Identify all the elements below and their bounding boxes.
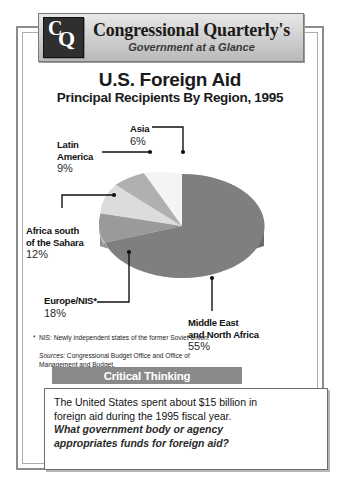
pie-label-latin-america: Latin America 9%: [57, 139, 93, 175]
publisher-title: Congressional Quarterly's: [84, 21, 299, 40]
pie-label-asia-pct: 6%: [130, 135, 149, 148]
ct-statement-line2: foreign aid during the 1995 fiscal year.: [54, 410, 318, 424]
pie-label-europe-nis: Europe/NIS* 18%: [44, 295, 97, 320]
ct-question-line2: appropriates funds for foreign aid?: [54, 437, 318, 451]
chart-title: U.S. Foreign Aid: [0, 69, 340, 91]
pie-label-africa-line2: of the Sahara: [26, 237, 84, 249]
ct-statement-line1: The United States spent about $15 billio…: [54, 396, 318, 410]
pie-label-europe-pct: 18%: [44, 307, 97, 320]
pie-label-africa-line1: Africa south: [26, 225, 84, 237]
cq-logo-icon: C Q: [43, 17, 84, 58]
pie-label-latin-line1: Latin: [57, 139, 93, 151]
chart-subtitle: Principal Recipients By Region, 1995: [0, 90, 340, 105]
critical-thinking-banner: Critical Thinking: [52, 367, 242, 384]
header-text-block: Congressional Quarterly's Government at …: [84, 21, 303, 54]
sources-label: Sources:: [39, 352, 65, 359]
header-banner: C Q Congressional Quarterly's Government…: [38, 13, 304, 62]
pie-label-asia: Asia 6%: [130, 123, 149, 148]
ct-question-line1: What government body or agency: [54, 423, 318, 437]
pie-label-asia-name: Asia: [130, 123, 149, 135]
critical-thinking-label: Critical Thinking: [104, 370, 191, 382]
footnote-nis-text: NIS: Newly independent states of the for…: [33, 334, 218, 343]
pie-label-africa: Africa south of the Sahara 12%: [26, 225, 84, 261]
footnote-nis: NIS: Newly independent states of the for…: [33, 334, 218, 343]
critical-thinking-question-box: The United States spent about $15 billio…: [44, 388, 328, 470]
pie-label-latin-line2: America: [57, 151, 93, 163]
pie-label-mideast-line1: Middle East: [188, 317, 259, 329]
pie-label-latin-pct: 9%: [57, 162, 93, 175]
cq-logo-letter-q: Q: [58, 28, 75, 50]
publisher-subtitle: Government at a Glance: [84, 40, 299, 54]
pie-label-europe-name: Europe/NIS*: [44, 295, 97, 307]
pie-label-africa-pct: 12%: [26, 248, 84, 261]
